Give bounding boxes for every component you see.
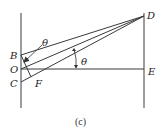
angle-arrowhead-top	[72, 48, 76, 51]
label-O: O	[10, 64, 18, 75]
label-theta-upper: θ	[42, 37, 48, 48]
figure-caption: (c)	[75, 116, 86, 128]
label-B: B	[9, 50, 17, 61]
label-theta-right: θ	[81, 56, 87, 67]
label-D: D	[146, 10, 155, 21]
label-E: E	[147, 66, 156, 77]
label-F: F	[34, 78, 43, 89]
label-C: C	[10, 78, 18, 89]
angle-arrowhead-bottom	[74, 65, 78, 69]
line-BF	[21, 55, 31, 77]
geometry-diagram: B O C D E F θ θ (c)	[0, 0, 164, 137]
